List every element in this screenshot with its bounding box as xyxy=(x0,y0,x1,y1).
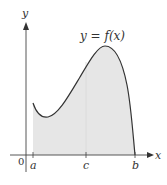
function-label: y = f(x) xyxy=(79,29,125,43)
point-a-label: a xyxy=(30,159,37,172)
point-c-label: c xyxy=(83,159,89,172)
x-axis-arrow-icon xyxy=(147,152,154,158)
origin-label: 0 xyxy=(18,156,24,167)
x-axis-label: x xyxy=(155,149,162,162)
y-axis-arrow-icon xyxy=(23,22,29,30)
y-axis-label: y xyxy=(21,7,29,20)
point-b-label: b xyxy=(132,159,139,172)
area-under-curve-diagram: y x 0 a c b y = f(x) xyxy=(0,0,167,185)
shaded-area xyxy=(33,46,135,155)
